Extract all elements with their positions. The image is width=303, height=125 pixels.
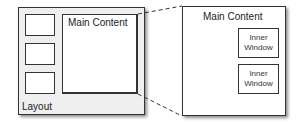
- inner-window-1-line2: Window: [239, 43, 278, 53]
- inner-window-1-line1: Inner: [239, 33, 278, 43]
- inner-window-2-line2: Window: [239, 79, 278, 89]
- inner-window-2-line1: Inner: [239, 69, 278, 79]
- zoomed-main-content: [182, 6, 286, 116]
- zoomed-main-content-title: Main Content: [203, 11, 262, 22]
- inner-window-2: Inner Window: [238, 64, 279, 94]
- inner-window-1: Inner Window: [238, 28, 279, 58]
